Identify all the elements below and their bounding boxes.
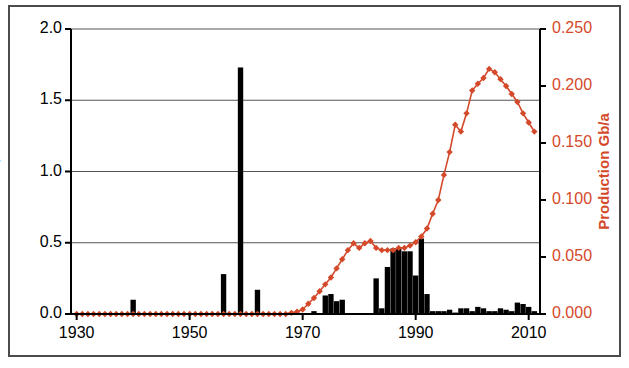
production-marker	[463, 110, 469, 116]
production-marker	[379, 247, 385, 253]
discovery-bar	[340, 300, 345, 314]
discovery-bar	[385, 267, 390, 314]
discovery-bar	[221, 274, 226, 314]
axis-lines	[65, 29, 546, 320]
plot-canvas	[0, 0, 629, 368]
discovery-bar	[520, 304, 525, 314]
discovery-bar	[424, 294, 429, 314]
discovery-bar	[373, 278, 378, 314]
production-marker	[435, 197, 441, 203]
discovery-bar	[515, 303, 520, 314]
gridlines	[71, 29, 540, 314]
production-markers	[73, 66, 537, 318]
production-marker	[401, 245, 407, 251]
production-marker	[446, 149, 452, 155]
discovery-bar	[407, 251, 412, 314]
discovery-bar	[334, 301, 339, 314]
discovery-bar	[255, 290, 260, 314]
production-marker	[384, 247, 390, 253]
discovery-bar	[323, 295, 328, 314]
production-line	[77, 69, 535, 314]
production-marker	[429, 210, 435, 216]
discovery-bars	[130, 67, 537, 314]
discovery-bar	[238, 67, 243, 314]
production-marker	[441, 172, 447, 178]
chart-figure: Discovery Gb/a Production Gb/a 0.00.51.0…	[0, 0, 629, 368]
discovery-bar	[475, 307, 480, 314]
discovery-bar	[396, 248, 401, 314]
discovery-bar	[328, 294, 333, 314]
discovery-bar	[526, 307, 531, 314]
production-marker	[288, 310, 294, 316]
discovery-bar	[402, 251, 407, 314]
discovery-bar	[419, 238, 424, 314]
discovery-bar	[413, 276, 418, 314]
discovery-bar	[390, 248, 395, 314]
